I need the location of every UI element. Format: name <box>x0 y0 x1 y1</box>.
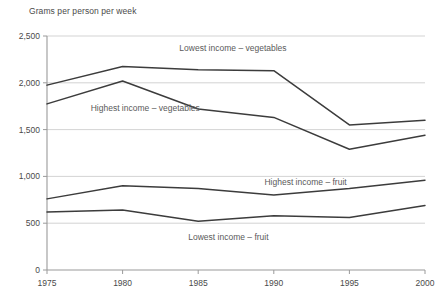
y-axis-tick-label: 1,500 <box>19 125 41 135</box>
y-axis-tick-label: 1,000 <box>19 171 41 181</box>
chart-series-line <box>47 81 425 149</box>
x-axis-tick-label: 1975 <box>38 278 57 288</box>
chart-series-line <box>47 66 425 125</box>
line-chart-plot: 05001,0001,5002,0002,5001975198019851990… <box>0 0 436 305</box>
chart-series-label: Highest income – fruit <box>264 177 347 187</box>
chart-series-line <box>47 205 425 221</box>
x-axis-tick-label: 1985 <box>189 278 208 288</box>
chart-series-label: Highest income – vegetables <box>91 103 200 113</box>
x-axis-tick-label: 1995 <box>340 278 359 288</box>
chart-series-label: Lowest income – vegetables <box>179 43 286 53</box>
x-axis-tick-label: 1980 <box>113 278 132 288</box>
chart-series-line <box>47 180 425 199</box>
y-axis-tick-label: 2,500 <box>19 31 41 41</box>
x-axis-tick-label: 2000 <box>416 278 435 288</box>
y-axis-tick-label: 2,000 <box>19 78 41 88</box>
y-axis-tick-label: 0 <box>35 265 40 275</box>
y-axis-tick-label: 500 <box>26 218 40 228</box>
x-axis-tick-label: 1990 <box>264 278 283 288</box>
chart-series-label: Lowest income – fruit <box>188 232 269 242</box>
chart-figure: Grams per person per week 05001,0001,500… <box>0 0 436 305</box>
